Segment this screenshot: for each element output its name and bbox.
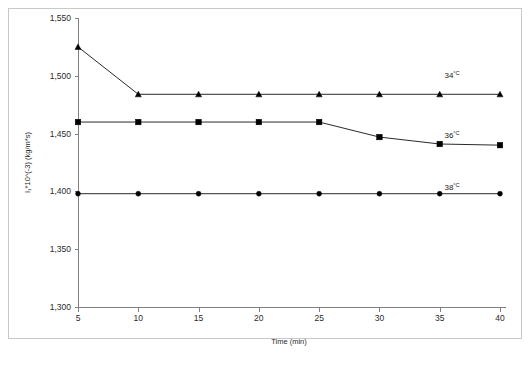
data-point-marker [317,191,322,196]
data-point-marker [316,119,322,125]
series-36 [75,119,503,148]
x-tick-label: 10 [134,313,144,323]
data-point-marker [497,142,503,148]
y-axis-ticks: 1,3001,3501,4001,4501,5001,550 [50,13,79,312]
x-tick-label: 25 [314,313,324,323]
x-tick-label: 35 [435,313,445,323]
series-label-36: 36°C [444,130,459,140]
x-axis-title: Time (min) [271,337,307,346]
y-tick-label: 1,400 [50,186,72,196]
y-tick-label: 1,500 [50,71,72,81]
data-point-marker [256,191,261,196]
data-point-marker [377,134,383,140]
series-label-38: 38°C [444,182,459,192]
data-point-marker [136,191,141,196]
data-series-group [75,44,503,196]
series-label-34: 34°C [444,70,459,80]
data-point-marker [196,119,202,125]
series-38 [76,191,503,196]
axis-titles: Time (min)I₁*10^(-3) (kg/m*s) [23,131,307,346]
y-tick-label: 1,550 [50,13,72,23]
data-point-marker [377,191,382,196]
y-tick-label: 1,350 [50,244,72,254]
data-point-marker [75,119,81,125]
y-tick-label: 1,300 [50,302,72,312]
plot-frame [9,9,522,339]
y-axis-title: I₁*10^(-3) (kg/m*s) [23,131,32,193]
chart-container: 1,3001,3501,4001,4501,5001,550 510152025… [0,0,530,370]
x-tick-label: 20 [254,313,264,323]
data-point-marker [196,191,201,196]
series-line [78,122,500,145]
x-tick-label: 30 [375,313,385,323]
x-tick-label: 5 [76,313,81,323]
x-tick-label: 15 [194,313,204,323]
data-point-marker [437,141,443,147]
data-point-marker [256,119,262,125]
data-point-marker [437,191,442,196]
series-inline-labels: 34°C36°C38°C [444,70,459,192]
x-tick-label: 40 [495,313,505,323]
series-34 [75,44,503,97]
series-line [78,47,500,94]
data-point-marker [136,119,142,125]
data-point-marker [75,44,81,50]
data-point-marker [76,191,81,196]
data-point-marker [498,191,503,196]
x-axis-ticks: 510152025303540 [76,308,505,324]
line-chart: 1,3001,3501,4001,4501,5001,550 510152025… [0,0,530,370]
y-tick-label: 1,450 [50,129,72,139]
